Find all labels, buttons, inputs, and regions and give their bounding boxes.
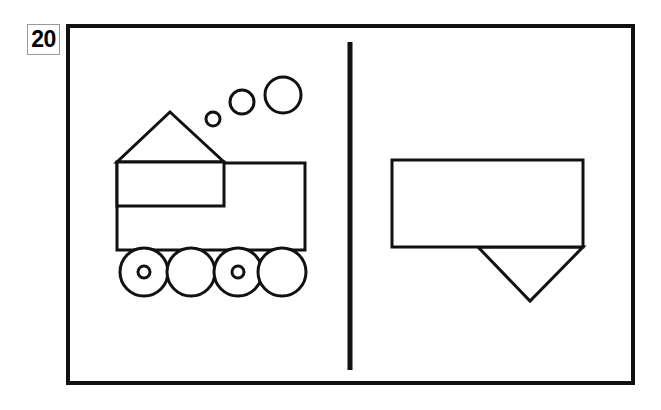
train-wheel-2	[167, 248, 215, 296]
train-wheel-4	[258, 248, 306, 296]
smoke-puff-small	[206, 112, 220, 126]
smoke-puff-large	[265, 77, 301, 113]
train-wheel-1-hub-icon	[138, 266, 150, 278]
figure-canvas	[0, 0, 661, 410]
figure-number-label: 20	[31, 28, 56, 51]
figure-number-badge: 20	[27, 24, 60, 55]
figure-page: 20	[0, 0, 661, 410]
smoke-puff-medium	[230, 90, 254, 114]
partial-rectangle	[392, 160, 583, 247]
train-wheel-3-hub-icon	[232, 266, 244, 278]
train-cab-rectangle	[117, 162, 224, 206]
